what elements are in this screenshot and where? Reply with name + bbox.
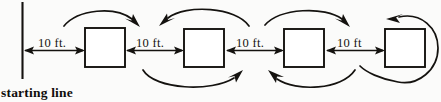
arc-top-back-1 <box>159 9 249 26</box>
starting-line-label: starting line <box>1 85 73 101</box>
distance-label-1: 10 ft. <box>38 36 66 51</box>
distance-label-4: 10 ft <box>337 36 362 51</box>
distance-diagram: 10 ft. 10 ft. 10 ft. 10 ft starting line <box>0 0 441 102</box>
box-2 <box>184 29 224 67</box>
box-4 <box>385 29 425 67</box>
distance-label-2: 10 ft. <box>136 36 164 51</box>
box-3 <box>284 29 324 67</box>
distance-label-3: 10 ft. <box>236 36 264 51</box>
arc-bottom-back-1 <box>268 70 355 87</box>
arc-top-forward-1 <box>64 11 140 27</box>
box-1 <box>85 28 125 67</box>
arc-top-forward-2 <box>265 11 350 27</box>
arc-bottom-forward-1 <box>143 70 243 87</box>
